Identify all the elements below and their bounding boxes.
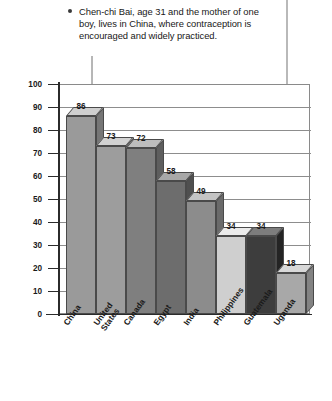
x-label-canada: Canada bbox=[122, 298, 147, 328]
bar-chart-figure: Chen-chi Bai, age 31 and the mother of o… bbox=[0, 0, 332, 401]
x-label-china: China bbox=[62, 303, 83, 327]
x-label-india: India bbox=[182, 306, 201, 327]
x-axis-labels: China United States Canada Egypt India P… bbox=[0, 0, 332, 401]
x-label-guatemala: Guatemala bbox=[242, 287, 275, 327]
x-label-egypt: Egypt bbox=[152, 303, 173, 327]
x-label-uganda: Uganda bbox=[272, 297, 298, 327]
x-label-united-states: United States bbox=[92, 301, 122, 333]
